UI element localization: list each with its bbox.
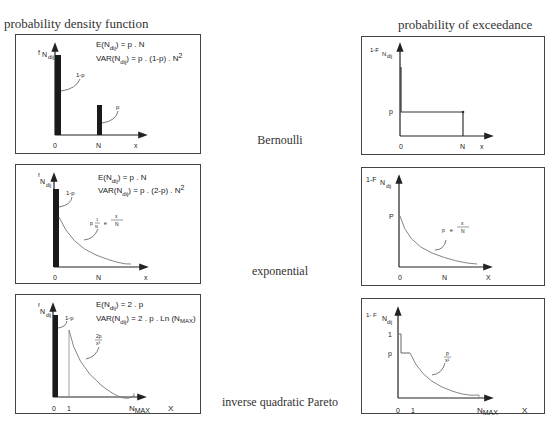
pareto-pdf-formula: 2p x³ (95, 333, 102, 346)
svg-text:N: N (95, 224, 98, 229)
svg-text:0: 0 (399, 143, 403, 150)
exceedance-column-header: probability of exceedance (398, 17, 532, 33)
svg-text:x: x (134, 142, 138, 149)
svg-text:1-p: 1-p (66, 190, 75, 196)
svg-text:0: 0 (52, 405, 56, 412)
svg-text:1- F: 1- F (366, 312, 377, 318)
pareto-exceedance-panel: 1- F N dij 1 p p x² 0 1 NMAX X (361, 298, 545, 414)
svg-text:dij: dij (46, 312, 51, 318)
svg-text:N: N (461, 228, 465, 234)
svg-text:VAR(Ndij) = 2 . p . Ln (NMAX): VAR(Ndij) = 2 . p . Ln (NMAX) (96, 314, 196, 325)
pareto-pdf-panel: f N dij 1-p 2p x³ 0 1 NMAX X E(Ndij) = 2… (15, 294, 201, 414)
svg-text:p: p (446, 350, 449, 356)
bernoulli-pdf-panel: f N dij 1-p p 0 N x E(Ndij) = p . N VAR(… (15, 34, 201, 154)
svg-text:N: N (40, 178, 45, 185)
svg-text:1-p: 1-p (65, 315, 74, 321)
svg-text:NMAX: NMAX (129, 404, 150, 414)
bernoulli-exceedance-plot: 1-F N dij p 0 N x (362, 37, 546, 156)
svg-text:X: X (486, 274, 491, 281)
svg-text:dij: dij (46, 182, 51, 188)
pareto-exceedance-plot: 1- F N dij 1 p p x² 0 1 NMAX X (362, 299, 546, 415)
svg-text:dij: dij (48, 54, 54, 60)
svg-text:E(Ndij) = p . N: E(Ndij) = p . N (96, 40, 145, 51)
svg-text:p: p (116, 104, 120, 110)
bar-zero (55, 55, 61, 135)
svg-text:N: N (40, 308, 45, 315)
svg-text:2p: 2p (96, 333, 102, 339)
row-label-bernoulli: Bernoulli (200, 133, 360, 148)
svg-text:1: 1 (67, 405, 71, 412)
svg-text:N: N (42, 51, 47, 58)
svg-text:p: p (90, 220, 93, 226)
bar-n (97, 105, 102, 135)
pareto-exceedance-formula: p x² (444, 350, 451, 363)
svg-text:N: N (380, 179, 385, 186)
pareto-pdf-plot: f N dij 1-p 2p x³ 0 1 NMAX X E(Ndij) = 2… (16, 295, 202, 415)
svg-text:P: P (389, 213, 394, 220)
svg-text:N: N (96, 142, 101, 149)
bar-zero (53, 189, 59, 267)
svg-text:1: 1 (411, 407, 415, 414)
svg-text:N: N (442, 274, 447, 281)
svg-text:x: x (480, 143, 484, 150)
exponential-exceedance-curve (400, 216, 477, 264)
svg-text:p: p (388, 350, 392, 358)
svg-text:0: 0 (398, 274, 402, 281)
pdf-exponential-formula: p 1 N e x N (90, 213, 123, 229)
svg-text:E(Ndij) = p . N: E(Ndij) = p . N (98, 173, 147, 184)
svg-text:1-F: 1-F (366, 176, 377, 183)
svg-text:dij: dij (387, 53, 392, 59)
svg-text:x³: x³ (96, 340, 101, 346)
svg-text:f: f (38, 49, 40, 56)
row-label-pareto: inverse quadratic Pareto (200, 395, 360, 410)
svg-text:N: N (115, 221, 119, 227)
svg-text:N: N (382, 51, 386, 57)
svg-text:p: p (389, 108, 393, 116)
svg-text:VAR(Ndij) = p . (1-p) . N2: VAR(Ndij) = p . (1-p) . N2 (96, 52, 183, 65)
exceedance-exponential-formula: p e x N (442, 220, 469, 234)
svg-text:dij: dij (386, 183, 391, 189)
svg-text:X: X (522, 406, 528, 415)
svg-text:N: N (96, 274, 101, 281)
svg-text:e: e (450, 227, 453, 233)
exponential-exceedance-panel: 1-F N dij P p e x N 0 N X (361, 167, 545, 286)
svg-text:dij: dij (387, 319, 392, 325)
svg-text:x: x (115, 213, 118, 219)
svg-text:X: X (168, 404, 174, 413)
svg-text:x²: x² (445, 357, 450, 363)
exponential-pdf-plot: f N dij 1-p p 1 N e x N 0 N x E(Ndij) = … (16, 165, 202, 285)
row-label-exponential: exponential (200, 264, 360, 279)
bernoulli-pdf-plot: f N dij 1-p p 0 N x E(Ndij) = p . N VAR(… (16, 35, 202, 155)
svg-text:e: e (104, 220, 107, 226)
svg-text:E(Ndij) = 2 . p: E(Ndij) = 2 . p (96, 300, 144, 311)
svg-text:VAR(Ndij) = p . (2-p) . N2: VAR(Ndij) = p . (2-p) . N2 (98, 184, 185, 197)
svg-text:1: 1 (388, 331, 392, 338)
svg-text:1-F: 1-F (370, 47, 379, 53)
svg-text:0: 0 (53, 142, 57, 149)
exponential-pdf-panel: f N dij 1-p p 1 N e x N 0 N x E(Ndij) = … (15, 164, 201, 284)
bar-zero (53, 315, 58, 397)
pdf-column-header: probability density function (4, 16, 148, 32)
bernoulli-exceedance-panel: 1-F N dij p 0 N x (361, 36, 545, 155)
svg-text:1: 1 (96, 217, 99, 222)
step-curve (401, 67, 463, 136)
svg-text:0: 0 (396, 407, 400, 414)
exponential-exceedance-plot: 1-F N dij P p e x N 0 N X (362, 168, 546, 287)
svg-text:0: 0 (53, 274, 57, 281)
svg-text:NMAX: NMAX (477, 406, 498, 415)
svg-text:x: x (461, 220, 464, 226)
svg-text:1-p: 1-p (76, 72, 85, 78)
svg-text:p: p (442, 227, 445, 233)
svg-text:x: x (144, 274, 148, 281)
svg-text:N: N (460, 143, 465, 150)
